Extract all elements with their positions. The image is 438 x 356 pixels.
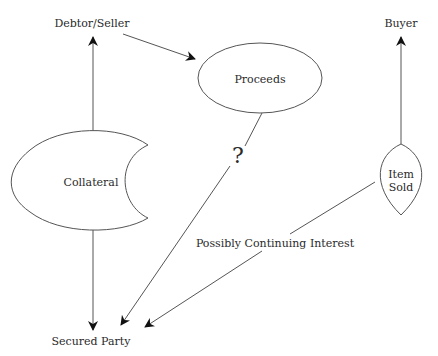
edge-itemsold-to-securedparty-b — [145, 251, 262, 327]
diagram-svg: Debtor/Seller Buyer Proceeds Collateral … — [0, 0, 438, 356]
possibly-continuing-interest-label: Possibly Continuing Interest — [196, 237, 355, 250]
debtor-seller-label: Debtor/Seller — [54, 17, 130, 30]
buyer-label: Buyer — [384, 17, 418, 30]
proceeds-label: Proceeds — [234, 73, 286, 86]
item-sold-label-line1: Item — [388, 168, 414, 181]
edge-itemsold-to-securedparty-a — [290, 182, 375, 234]
secured-party-label: Secured Party — [52, 335, 132, 348]
diagram-canvas: Debtor/Seller Buyer Proceeds Collateral … — [0, 0, 438, 356]
item-sold-label-line2: Sold — [389, 181, 414, 194]
collateral-label: Collateral — [64, 176, 119, 189]
question-mark-label: ? — [232, 143, 244, 168]
edge-proceeds-to-securedparty-a — [245, 113, 262, 146]
edge-debtor-to-proceeds — [123, 34, 195, 59]
